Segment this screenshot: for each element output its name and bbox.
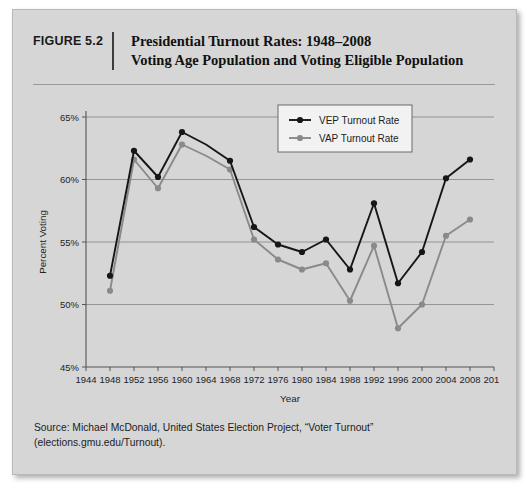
figure-title-line-2: Voting Age Population and Voting Eligibl… (131, 51, 463, 70)
data-point-vep-1948 (107, 273, 113, 279)
data-point-vap-2000 (419, 301, 425, 307)
data-point-vep-1972 (251, 224, 257, 230)
series-line-vap (110, 145, 470, 329)
data-point-vap-1980 (299, 266, 305, 272)
data-point-vap-1984 (323, 260, 329, 266)
y-tick-label-55: 55% (60, 237, 80, 248)
chart-legend: VEP Turnout RateVAP Turnout Rate (278, 105, 412, 152)
x-tick-label-1948: 1948 (99, 374, 120, 385)
x-tick-label-1996: 1996 (387, 374, 408, 385)
data-point-vep-2004 (443, 175, 449, 181)
y-tick-label-65: 65% (60, 112, 80, 123)
data-point-vap-1956 (155, 185, 161, 191)
series-group (107, 129, 473, 331)
x-tick-label-1968: 1968 (219, 374, 240, 385)
data-point-vep-2008 (467, 156, 473, 162)
y-axis-title: Percent Voting (37, 210, 48, 274)
x-axis-title: Year (280, 393, 301, 404)
y-tick-label-50: 50% (60, 299, 80, 310)
x-tick-label-1976: 1976 (267, 374, 288, 385)
data-point-vep-1968 (227, 158, 233, 164)
data-point-vep-1976 (275, 241, 281, 247)
figure-title-line-1: Presidential Turnout Rates: 1948–2008 (131, 32, 463, 51)
data-point-vep-1996 (395, 280, 401, 286)
x-tick-label-1980: 1980 (291, 374, 312, 385)
x-tick-label-1984: 1984 (315, 374, 336, 385)
data-point-vep-1992 (371, 200, 377, 206)
header-rule (33, 84, 495, 85)
data-point-vap-1988 (347, 298, 353, 304)
legend-label-vap: VAP Turnout Rate (319, 133, 399, 144)
data-point-vep-2000 (419, 249, 425, 255)
figure-card: FIGURE 5.2 Presidential Turnout Rates: 1… (12, 9, 517, 475)
x-tick-label-1952: 1952 (123, 374, 144, 385)
series-line-vep (110, 132, 470, 283)
turnout-line-chart: VEP Turnout RateVAP Turnout Rate 45%50%5… (33, 94, 499, 406)
x-tick-label-2000: 2000 (411, 374, 432, 385)
x-tick-label-2012: 2012 (483, 374, 499, 385)
header-divider (112, 32, 114, 70)
y-tick-label-60: 60% (60, 174, 80, 185)
x-tick-label-1944: 1944 (75, 374, 96, 385)
data-point-vep-1980 (299, 249, 305, 255)
axis-labels-group: 45%50%55%60%65%1944194819521956196019641… (37, 112, 499, 404)
data-point-vap-1992 (371, 243, 377, 249)
x-tick-label-1988: 1988 (339, 374, 360, 385)
figure-header: FIGURE 5.2 Presidential Turnout Rates: 1… (33, 32, 495, 80)
chart-region: VEP Turnout RateVAP Turnout Rate 45%50%5… (33, 94, 499, 406)
data-point-vep-1988 (347, 266, 353, 272)
data-point-vap-1996 (395, 325, 401, 331)
data-point-vap-2004 (443, 233, 449, 239)
legend-marker-vap (297, 135, 303, 141)
x-tick-label-1956: 1956 (147, 374, 168, 385)
y-tick-label-45: 45% (60, 362, 80, 373)
data-point-vep-1956 (155, 174, 161, 180)
x-tick-label-1960: 1960 (171, 374, 192, 385)
data-point-vap-1960 (179, 141, 185, 147)
legend-box (278, 105, 412, 152)
source-note: Source: Michael McDonald, United States … (34, 421, 489, 451)
x-tick-label-1964: 1964 (195, 374, 216, 385)
legend-label-vep: VEP Turnout Rate (319, 115, 400, 126)
x-tick-label-1992: 1992 (363, 374, 384, 385)
x-tick-label-1972: 1972 (243, 374, 264, 385)
x-tick-label-2004: 2004 (435, 374, 456, 385)
data-point-vap-2008 (467, 216, 473, 222)
figure-label: FIGURE 5.2 (33, 32, 103, 48)
data-point-vep-1960 (179, 129, 185, 135)
data-point-vep-1952 (131, 148, 137, 154)
legend-marker-vep (297, 117, 303, 123)
data-point-vap-1972 (251, 236, 257, 242)
data-point-vap-1948 (107, 288, 113, 294)
data-point-vep-1984 (323, 236, 329, 242)
x-tick-label-2008: 2008 (459, 374, 480, 385)
data-point-vap-1976 (275, 256, 281, 262)
figure-title: Presidential Turnout Rates: 1948–2008 Vo… (131, 32, 463, 69)
